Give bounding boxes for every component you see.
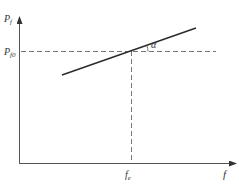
reference-x-label: fe xyxy=(125,169,131,182)
reference-y-label: Pf0 xyxy=(3,46,16,59)
angle-label: α xyxy=(151,39,157,50)
y-axis-label: Pf xyxy=(3,13,13,26)
diagram-canvas: Pf Pf0 α fe f xyxy=(0,0,239,190)
angle-arc xyxy=(147,46,148,52)
x-axis-label: f xyxy=(223,168,228,180)
